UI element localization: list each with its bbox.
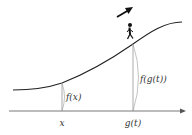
- function-composition-diagram: x g(t) f(x) f(g(t)): [0, 0, 192, 135]
- arrow-up-right-icon: [117, 7, 133, 17]
- f-x-height-marker: [62, 83, 65, 111]
- fgt-label: f(g(t)): [139, 74, 167, 84]
- x-label: x: [59, 118, 64, 128]
- fx-label: f(x): [65, 92, 82, 102]
- gt-label: g(t): [125, 118, 142, 128]
- f-gt-height-marker: [133, 44, 139, 111]
- person-walking-icon: [127, 23, 133, 39]
- x-axis: [9, 109, 186, 114]
